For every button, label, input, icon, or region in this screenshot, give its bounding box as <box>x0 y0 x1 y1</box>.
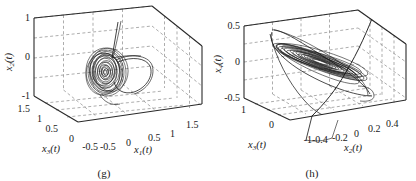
panel-h: 0.5 0 -0.5 x4(t) 1 0 -1 x3(t) -0.4 -0.2 … <box>208 0 416 181</box>
tick-g-rightbase-2: 0.5 <box>148 132 161 143</box>
axis-label-g-leftbase-tail: (t) <box>50 143 60 155</box>
tick-h-vertical-2: -0.5 <box>224 92 240 103</box>
caption-g: (g) <box>0 167 208 179</box>
tick-g-rightbase-0: -0.5 <box>100 141 116 152</box>
axis-label-h-vertical: x4(t) <box>212 54 225 74</box>
caption-h: (h) <box>208 167 416 179</box>
axis-label-h-rightbase-tail: (t) <box>352 142 362 154</box>
tick-g-leftbase-3: 0 <box>69 133 74 144</box>
attractor-trajectory-g <box>84 21 153 105</box>
tick-h-rightbase-2: 0 <box>354 128 359 139</box>
svg-text:x2(t): x2(t) <box>3 52 16 72</box>
tick-h-rightbase-4: 0.4 <box>386 118 399 129</box>
tick-h-rightbase-0: -0.4 <box>312 134 328 145</box>
axis-label-h-vertical-tail: (t) <box>212 54 224 64</box>
grid-back-right-wall-h <box>358 10 406 104</box>
tick-h-rightbase-3: 0.2 <box>368 123 381 134</box>
axis-label-h-leftbase: x3(t) <box>247 139 267 152</box>
tick-g-leftbase-0: 1.5 <box>18 103 31 114</box>
tick-g-rightbase-4: 1.5 <box>186 119 199 130</box>
plot-g-svg: 1 0 -1 x2(t) 1.5 1 0.5 0 -0.5 x3(t) -0.5… <box>0 0 208 160</box>
tick-g-leftbase-1: 1 <box>37 113 42 124</box>
axis-label-g-leftbase: x3(t) <box>41 143 61 156</box>
axis-label-h-leftbase-tail: (t) <box>256 139 266 151</box>
tick-h-leftbase-1: 0 <box>269 119 274 130</box>
tick-g-leftbase-4: -0.5 <box>82 141 98 152</box>
figure-container: 1 0 -1 x2(t) 1.5 1 0.5 0 -0.5 x3(t) -0.5… <box>0 0 416 181</box>
tick-g-rightbase-3: 1 <box>170 128 175 139</box>
tick-g-vertical-0: 1 <box>25 12 30 23</box>
tick-h-vertical-1: 0 <box>235 56 240 67</box>
tick-g-leftbase-2: 0.5 <box>46 123 59 134</box>
plot-h-svg: 0.5 0 -0.5 x4(t) 1 0 -1 x3(t) -0.4 -0.2 … <box>208 0 416 160</box>
axis-label-g-vertical-tail: (t) <box>3 52 15 62</box>
grid-back-right-wall-g <box>152 6 202 108</box>
tick-h-vertical-0: 0.5 <box>228 20 241 31</box>
axis-label-g-vertical: x2(t) <box>3 52 16 72</box>
tick-h-leftbase-0: 1 <box>241 104 246 115</box>
panel-g: 1 0 -1 x2(t) 1.5 1 0.5 0 -0.5 x3(t) -0.5… <box>0 0 208 181</box>
axis-label-g-rightbase-tail: (t) <box>142 144 152 156</box>
axis-label-h-rightbase: x2(t) <box>343 142 363 155</box>
tick-g-vertical-1: 0 <box>25 51 30 62</box>
axis-label-g-rightbase: x1(t) <box>133 144 153 157</box>
tick-g-vertical-2: -1 <box>22 90 30 101</box>
tick-g-rightbase-1: 0 <box>126 137 131 148</box>
svg-text:x4(t): x4(t) <box>212 54 225 74</box>
tick-h-leftbase-2: -1 <box>304 134 312 145</box>
